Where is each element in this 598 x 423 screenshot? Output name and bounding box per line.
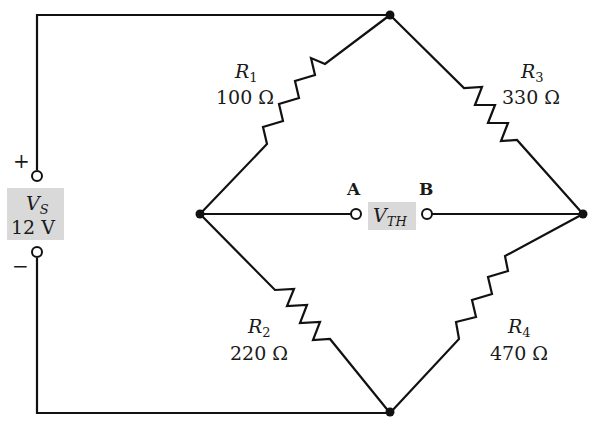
- source-plus-terminal: [32, 171, 42, 181]
- bridge-circuit-diagram: + − VS 12 V VTH A B R1 100 Ω R3 330 Ω R2…: [0, 0, 598, 423]
- node-bottom: [386, 408, 395, 417]
- resistor-r4-symbol: [390, 214, 583, 413]
- resistor-r1-symbol: [200, 15, 390, 214]
- resistor-r4-label: R4 470 Ω: [490, 315, 548, 364]
- node-right: [579, 210, 588, 219]
- resistor-r2-label: R2 220 Ω: [230, 315, 288, 364]
- resistor-r2-symbol: [200, 214, 390, 413]
- terminal-a-label: A: [346, 179, 361, 199]
- svg-text:470 Ω: 470 Ω: [490, 342, 548, 364]
- source-minus-label: −: [12, 254, 29, 278]
- svg-text:R4: R4: [507, 315, 531, 340]
- resistor-r1-label: R1 100 Ω: [216, 60, 274, 108]
- svg-text:330 Ω: 330 Ω: [502, 86, 560, 108]
- svg-text:220 Ω: 220 Ω: [230, 342, 288, 364]
- source-plus-label: +: [13, 149, 30, 173]
- terminal-b-label: B: [419, 179, 433, 199]
- svg-text:R1: R1: [234, 60, 258, 85]
- terminal-a: [351, 209, 361, 219]
- svg-text:R3: R3: [520, 60, 544, 85]
- node-top: [386, 11, 395, 20]
- svg-text:100 Ω: 100 Ω: [216, 86, 274, 108]
- resistor-r3-label: R3 330 Ω: [502, 60, 560, 108]
- terminal-b: [422, 209, 432, 219]
- svg-text:R2: R2: [247, 315, 271, 340]
- source-value: 12 V: [11, 216, 55, 238]
- source-minus-terminal: [32, 247, 42, 257]
- node-left: [196, 210, 205, 219]
